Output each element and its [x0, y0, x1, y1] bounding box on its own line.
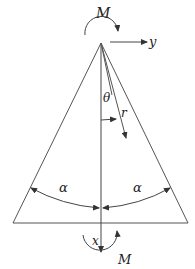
- diagram-svg: M y θ r α α x M: [0, 0, 195, 269]
- inner-radial-line: [101, 43, 112, 95]
- y-axis-label: y: [148, 34, 157, 49]
- moment-bottom-label: M: [117, 252, 132, 267]
- theta-arrow: [101, 119, 116, 120]
- radius-label: r: [121, 106, 128, 120]
- bottom-moment-arrow: [83, 231, 117, 250]
- theta-label: θ: [103, 91, 111, 105]
- wedge-right-edge: [101, 43, 188, 223]
- wedge-left-edge: [13, 43, 101, 223]
- x-axis-label: x: [92, 234, 99, 248]
- wedge-diagram: M y θ r α α x M: [0, 0, 195, 269]
- alpha-left-label: α: [59, 180, 68, 195]
- alpha-right-label: α: [133, 180, 142, 195]
- moment-top-label: M: [95, 5, 111, 21]
